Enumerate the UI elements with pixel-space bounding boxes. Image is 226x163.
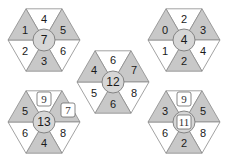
value-upper-left: 3 <box>162 105 168 117</box>
hexagon-top-right: 2 3 4 2 1 0 4 <box>148 9 220 71</box>
value-lower-right: 8 <box>60 127 66 139</box>
center-value: 7 <box>41 33 48 47</box>
value-upper-left: 0 <box>162 24 168 36</box>
value-upper-right: 7 <box>65 104 71 116</box>
value-upper-right: 5 <box>200 105 206 117</box>
value-top: 4 <box>41 13 47 25</box>
value-upper-left: 5 <box>22 105 28 117</box>
value-upper-right: 5 <box>60 24 66 36</box>
value-upper-right: 7 <box>131 64 137 76</box>
value-lower-left: 2 <box>22 45 28 57</box>
value-lower-left: 5 <box>91 87 97 99</box>
value-upper-left: 4 <box>91 64 97 76</box>
center-value: 4 <box>181 33 188 47</box>
value-bottom: 2 <box>181 55 187 67</box>
value-lower-right: 4 <box>200 45 206 57</box>
value-lower-left: 6 <box>162 127 168 139</box>
value-lower-right: 6 <box>60 45 66 57</box>
center-value: 11 <box>179 116 190 128</box>
value-upper-left: 1 <box>22 24 28 36</box>
value-lower-left: 6 <box>22 127 28 139</box>
value-top: 9 <box>181 93 187 105</box>
hexagon-bottom-left: 9 7 8 4 6 5 13 <box>8 91 80 153</box>
puzzle-canvas: 4 5 6 3 2 1 7 2 3 4 2 1 0 4 6 7 8 6 5 <box>0 0 226 163</box>
value-top: 2 <box>181 13 187 25</box>
center-value: 13 <box>37 115 51 129</box>
value-upper-right: 3 <box>200 24 206 36</box>
value-bottom: 2 <box>181 137 187 149</box>
value-top: 6 <box>110 54 116 66</box>
value-bottom: 4 <box>41 137 47 149</box>
value-bottom: 3 <box>41 55 47 67</box>
value-lower-left: 1 <box>162 45 168 57</box>
value-top: 9 <box>41 93 47 105</box>
hexagon-middle: 6 7 8 6 5 4 12 <box>77 51 149 113</box>
value-lower-right: 8 <box>200 127 206 139</box>
value-lower-right: 8 <box>131 87 137 99</box>
hexagon-bottom-right: 9 5 8 2 6 3 11 <box>148 91 220 153</box>
value-bottom: 6 <box>110 98 116 110</box>
hexagon-top-left: 4 5 6 3 2 1 7 <box>8 9 80 71</box>
center-value: 12 <box>106 75 120 89</box>
